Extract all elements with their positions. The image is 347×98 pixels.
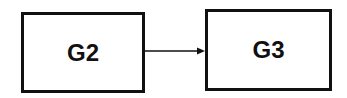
node-g3-label: G3 xyxy=(252,36,284,64)
node-g3: G3 xyxy=(205,9,332,91)
